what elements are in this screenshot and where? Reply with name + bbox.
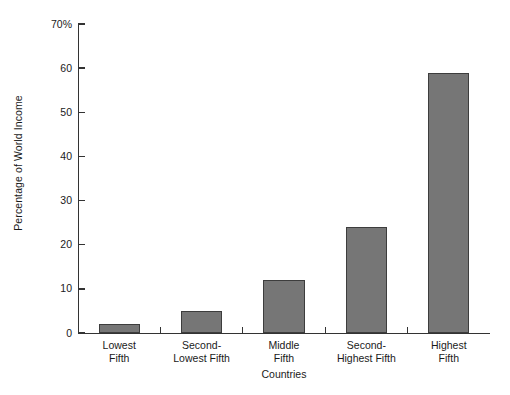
x-axis-line [78,333,490,334]
y-axis-tick-label-wrap: 60 [26,63,72,74]
x-axis-category-label: Second-Lowest Fifth [154,339,248,364]
y-axis-tick-label: 10 [28,283,72,293]
y-axis-tick [78,23,85,24]
y-axis-tick [78,332,85,333]
x-axis-category-label: LowestFifth [72,339,166,364]
y-axis-tick [78,200,85,201]
x-axis-category-label: Second-Highest Fifth [319,339,413,364]
bar [428,73,469,333]
x-axis-category-label-line: Lowest [72,339,166,352]
x-axis-category-label-line: Highest [402,339,496,352]
y-axis-tick [78,244,85,245]
x-axis-category-label-line: Second- [319,339,413,352]
y-axis-tick-label-wrap: 70% [26,19,72,30]
x-axis-category-label-line: Middle [237,339,331,352]
y-axis-tick-label: 0 [28,328,72,338]
x-axis-category-label-line: Fifth [237,352,331,365]
y-axis-tick-label-wrap: 10 [26,283,72,294]
y-axis-tick-label: 50 [28,107,72,117]
x-axis-tick [325,327,326,334]
y-axis-tick-label-wrap: 50 [26,107,72,118]
y-axis-tick [78,67,85,68]
y-axis-tick-label: 40 [28,151,72,161]
x-axis-tick [242,327,243,334]
bar [181,311,222,333]
bar [99,324,140,333]
y-axis-tick-label-wrap: 40 [26,151,72,162]
bar [346,227,387,333]
x-axis-title: Countries [78,368,490,380]
y-axis-tick-label: 70% [28,19,72,29]
x-axis-category-label-line: Fifth [72,352,166,365]
x-axis-category-label: MiddleFifth [237,339,331,364]
y-axis-tick-label: 60 [28,63,72,73]
y-axis-tick [78,288,85,289]
bar-chart: Percentage of World Income 0102030405060… [0,0,510,395]
y-axis-tick-label-wrap: 20 [26,239,72,250]
y-axis-tick-label: 30 [28,195,72,205]
x-axis-category-label-line: Second- [154,339,248,352]
x-axis-tick [160,327,161,334]
bar [263,280,304,333]
x-axis-category-label-line: Fifth [402,352,496,365]
x-axis-category-label-line: Highest Fifth [319,352,413,365]
y-axis-tick-label: 20 [28,239,72,249]
x-axis-category-label-line: Lowest Fifth [154,352,248,365]
y-axis-tick-label-wrap: 30 [26,195,72,206]
x-axis-tick [407,327,408,334]
y-axis-tick [78,112,85,113]
x-axis-category-label: HighestFifth [402,339,496,364]
y-axis-tick [78,156,85,157]
y-axis-tick-label-wrap: 0 [26,328,72,339]
